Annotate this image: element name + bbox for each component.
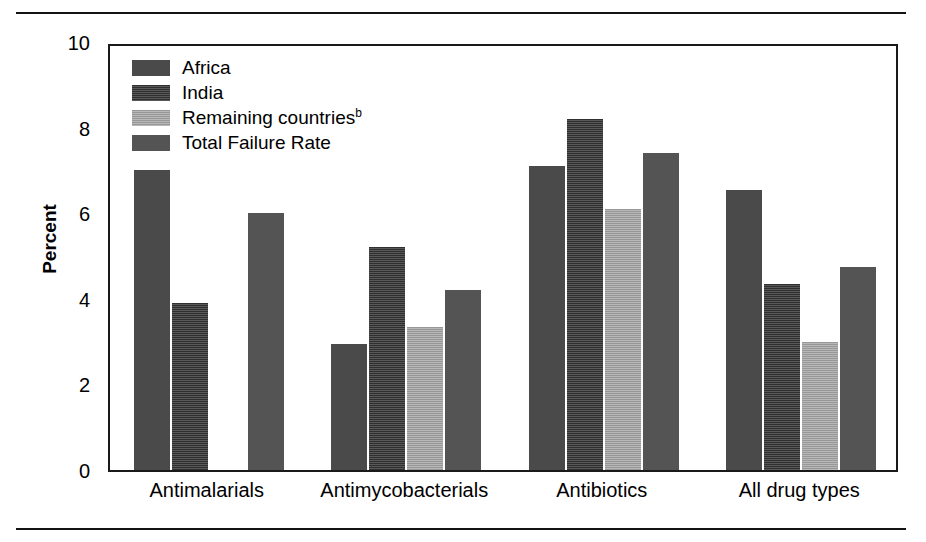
bar xyxy=(802,342,838,470)
y-axis-tick-label: 10 xyxy=(36,33,90,53)
x-axis-tick-label: All drug types xyxy=(679,479,919,501)
bar xyxy=(764,284,800,470)
bar xyxy=(134,170,170,470)
legend-item-label: Africa xyxy=(182,58,231,77)
bar xyxy=(369,247,405,470)
legend-item: Total Failure Rate xyxy=(132,130,462,155)
bar xyxy=(840,267,876,470)
bar xyxy=(172,303,208,470)
bar xyxy=(529,166,565,470)
legend-item-label: Remaining countriesb xyxy=(182,108,362,127)
bar xyxy=(331,344,367,470)
legend-item-label: India xyxy=(182,83,223,102)
legend-swatch-icon xyxy=(132,110,170,126)
bottom-rule xyxy=(16,528,906,530)
legend-swatch-icon xyxy=(132,85,170,101)
legend-item: India xyxy=(132,80,462,105)
bar xyxy=(407,327,443,470)
legend-item-label: Total Failure Rate xyxy=(182,133,331,152)
bar xyxy=(445,290,481,470)
bar xyxy=(605,209,641,470)
bar xyxy=(567,119,603,470)
legend-item: Remaining countriesb xyxy=(132,105,462,130)
legend-item: Africa xyxy=(132,55,462,80)
bar xyxy=(726,190,762,470)
legend-footnote-marker: b xyxy=(355,106,362,120)
chart-legend: AfricaIndiaRemaining countriesbTotal Fai… xyxy=(132,55,462,155)
bar xyxy=(643,153,679,470)
plot-area: AfricaIndiaRemaining countriesbTotal Fai… xyxy=(108,44,898,472)
figure: Percent 0246810 AfricaIndiaRemaining cou… xyxy=(0,0,926,542)
legend-swatch-icon xyxy=(132,135,170,151)
y-axis-tick-label: 8 xyxy=(36,119,90,139)
y-axis-tick-label: 2 xyxy=(36,375,90,395)
y-axis-title: Percent xyxy=(39,169,61,309)
legend-swatch-icon xyxy=(132,60,170,76)
y-axis-tick-label: 6 xyxy=(36,204,90,224)
y-axis-tick-label: 4 xyxy=(36,290,90,310)
bar xyxy=(248,213,284,470)
y-axis-tick-label: 0 xyxy=(36,461,90,481)
top-rule xyxy=(16,12,906,14)
